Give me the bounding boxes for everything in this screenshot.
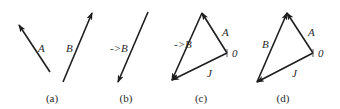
vector-label: J	[207, 67, 213, 79]
vector-b: B	[63, 13, 92, 82]
panel-c: A->BJ0(c)	[172, 13, 238, 105]
arrow-icon	[172, 53, 227, 80]
vector-j: J	[257, 53, 313, 82]
panel-caption: (b)	[120, 92, 133, 105]
vector-label: B	[262, 38, 269, 50]
panel-caption: (d)	[277, 92, 290, 105]
vector-label: ->B	[174, 38, 192, 50]
vector-label: A	[37, 42, 45, 54]
vector-j: J	[172, 53, 227, 80]
origin-label: 0	[318, 47, 324, 59]
arrow-icon	[257, 53, 313, 82]
vector-label: J	[292, 67, 298, 79]
panel-caption: (a)	[46, 92, 59, 105]
vector-label: A	[221, 26, 229, 38]
origin-label: 0	[232, 47, 238, 59]
vector-label: ->B	[110, 42, 128, 54]
vector-b: B	[257, 13, 287, 82]
vector-a: A	[287, 13, 315, 53]
vector-a: A	[202, 13, 229, 53]
vector-a: A	[19, 25, 50, 72]
arrow-icon	[19, 25, 50, 72]
vector-neg-b: ->B	[172, 13, 202, 80]
vector-neg-b: ->B	[110, 12, 148, 82]
panel-caption: (c)	[195, 92, 208, 105]
panels-group: AB(a)->B(b)A->BJ0(c)ABJ0(d)	[19, 12, 324, 105]
panel-d: ABJ0(d)	[257, 13, 324, 105]
panel-a: AB(a)	[19, 13, 92, 105]
panel-b: ->B(b)	[110, 12, 148, 105]
vector-diagram: AB(a)->B(b)A->BJ0(c)ABJ0(d)	[0, 0, 340, 109]
vector-label: A	[307, 26, 315, 38]
vector-label: B	[66, 42, 73, 54]
